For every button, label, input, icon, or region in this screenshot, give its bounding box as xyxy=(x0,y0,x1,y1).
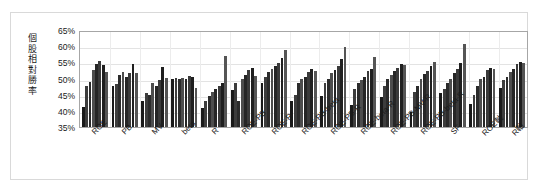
x-tick-r: R xyxy=(210,126,220,136)
y-tick-45pct: 45% xyxy=(58,91,75,101)
chart-figure: 個股相對勝率 65%60%55%50%45%40%35% ROEPBMVbeta… xyxy=(10,12,528,180)
y-axis-title-char-5: 率 xyxy=(25,86,39,97)
y-axis-tick-labels: 65%60%55%50%45%40%35% xyxy=(41,27,75,131)
plot-area xyxy=(79,31,528,128)
y-tick-55pct: 55% xyxy=(58,58,75,68)
y-tick-60pct: 60% xyxy=(58,42,75,52)
y-tick-65pct: 65% xyxy=(58,26,75,36)
bar xyxy=(135,73,138,127)
bar-series-container xyxy=(80,32,527,127)
y-axis-title: 個股相對勝率 xyxy=(25,33,39,96)
bar xyxy=(105,72,108,127)
y-axis-title-char-2: 相 xyxy=(25,54,39,65)
bar-group xyxy=(229,32,259,127)
y-axis-title-char-4: 勝 xyxy=(25,75,39,86)
bar xyxy=(522,63,525,127)
bar-group xyxy=(199,32,229,127)
x-axis-tick-labels: ROEPBMVbetaRROE-PBROE-RROE-PB-betaROE-PB… xyxy=(79,128,528,192)
bar-group xyxy=(467,32,497,127)
bar xyxy=(165,78,168,127)
bar-group xyxy=(289,32,319,127)
y-tick-40pct: 40% xyxy=(58,107,75,117)
bar xyxy=(463,44,466,127)
y-axis-title-char-1: 股 xyxy=(25,44,39,55)
bar-group xyxy=(110,32,140,127)
bar-group xyxy=(169,32,199,127)
bar-group xyxy=(80,32,110,127)
bar xyxy=(224,56,227,127)
bar-group xyxy=(497,32,527,127)
y-tick-50pct: 50% xyxy=(58,75,75,85)
y-tick-35pct: 35% xyxy=(58,123,75,133)
y-axis-title-char-3: 對 xyxy=(25,65,39,76)
bar-group xyxy=(140,32,170,127)
bar xyxy=(195,88,198,127)
y-axis-title-char-0: 個 xyxy=(25,33,39,44)
